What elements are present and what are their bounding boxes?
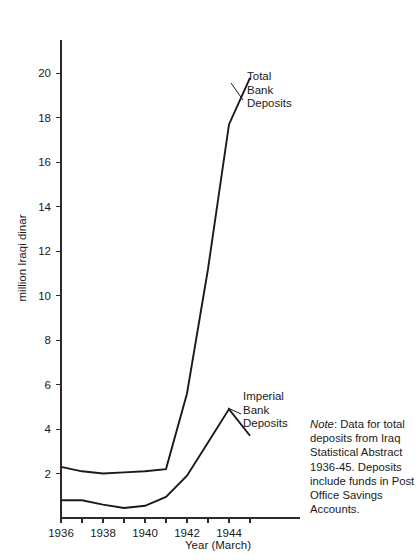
x-tick-label-1938: 1938	[83, 527, 123, 539]
y-tick-label-18: 18	[27, 112, 51, 124]
y-tick-label-20: 20	[27, 67, 51, 79]
y-tick-label-8: 8	[27, 334, 51, 346]
x-tick-label-1942: 1942	[167, 527, 207, 539]
y-tick-label-10: 10	[27, 290, 51, 302]
chart-axes	[56, 40, 300, 523]
x-tick-label-1936: 1936	[41, 527, 81, 539]
chart-series-lines	[61, 78, 250, 508]
series-annotation-imperial: Imperial Bank Deposits	[243, 390, 288, 431]
y-tick-label-6: 6	[27, 379, 51, 391]
series-annotation-total: Total Bank Deposits	[247, 70, 292, 111]
annotation-leader-lines	[228, 83, 243, 414]
x-axis-ticks	[61, 518, 250, 523]
x-tick-label-1940: 1940	[125, 527, 165, 539]
y-tick-label-12: 12	[27, 245, 51, 257]
y-tick-label-16: 16	[27, 156, 51, 168]
series-line-imperial-bank-deposits	[61, 409, 250, 508]
note-label: Note	[310, 418, 334, 430]
note-body: : Data for total deposits from Iraq Stat…	[310, 418, 414, 515]
y-tick-label-4: 4	[27, 423, 51, 435]
x-axis-label: Year (March)	[128, 539, 308, 551]
y-tick-label-2: 2	[27, 468, 51, 480]
y-tick-label-14: 14	[27, 201, 51, 213]
leader-line-total	[231, 83, 243, 100]
chart-figure: million Iraqi dinar Year (March) 2468101…	[0, 0, 418, 560]
series-line-total-bank-deposits	[61, 78, 250, 474]
chart-note: Note: Data for total deposits from Iraq …	[310, 417, 416, 516]
y-axis-ticks	[56, 73, 61, 473]
x-tick-label-1944: 1944	[209, 527, 249, 539]
